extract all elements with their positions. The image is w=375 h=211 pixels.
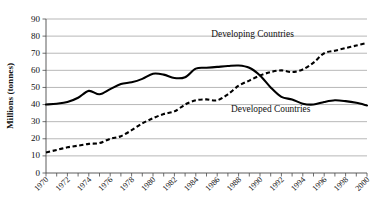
x-axis-tick-labels: 1970197219741976197819801982198419861988… <box>32 175 371 193</box>
y-axis-tick-labels: 0102030405060708090 <box>31 14 41 178</box>
y-axis-title: Millions (tonnes) <box>5 63 15 129</box>
y-tick-label: 50 <box>31 82 41 92</box>
cropped-title-remnant <box>0 0 375 9</box>
x-tick-label: 1972 <box>54 175 72 193</box>
x-tick-label: 1994 <box>289 175 307 193</box>
y-tick-label: 80 <box>31 31 41 41</box>
x-tick-label: 1988 <box>225 175 243 193</box>
x-tick-label: 1978 <box>118 175 136 193</box>
x-tick-label: 1982 <box>161 175 179 193</box>
y-tick-label: 60 <box>31 65 41 75</box>
x-tick-label: 1998 <box>332 175 350 193</box>
chart-container: 0102030405060708090 19701972197419761978… <box>0 0 375 211</box>
x-tick-label: 1974 <box>75 175 93 193</box>
x-axis-ticks <box>46 173 367 177</box>
x-tick-label: 1984 <box>182 175 200 193</box>
y-tick-label: 40 <box>31 99 41 109</box>
y-tick-label: 20 <box>31 133 41 143</box>
x-tick-label: 1976 <box>97 175 115 193</box>
gridlines <box>46 19 367 156</box>
x-tick-label: 2000 <box>353 175 371 193</box>
x-tick-label: 1980 <box>139 175 157 193</box>
y-axis-ticks <box>43 19 47 173</box>
y-tick-label: 70 <box>31 48 41 58</box>
y-tick-label: 10 <box>31 150 41 160</box>
y-tick-label: 0 <box>36 168 41 178</box>
y-tick-label: 90 <box>31 14 41 24</box>
x-tick-label: 1970 <box>32 175 50 193</box>
x-tick-label: 1992 <box>268 175 286 193</box>
y-tick-label: 30 <box>31 116 41 126</box>
x-tick-label: 1986 <box>204 175 222 193</box>
line-chart: 0102030405060708090 19701972197419761978… <box>0 0 375 211</box>
annotation-developing-countries: Developing Countries <box>211 29 294 39</box>
x-tick-label: 1996 <box>311 175 329 193</box>
series-developing-countries <box>46 43 367 153</box>
annotation-developed-countries: Developed Countries <box>231 104 311 114</box>
x-tick-label: 1990 <box>246 175 264 193</box>
